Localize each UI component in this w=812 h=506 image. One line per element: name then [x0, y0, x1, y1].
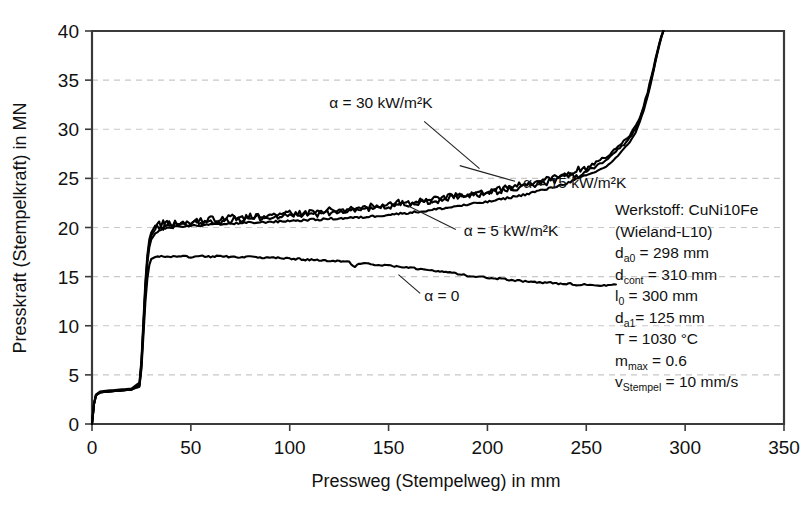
annotation-leader-line [424, 121, 479, 168]
x-tick-label: 300 [669, 437, 701, 458]
annotation-label: α = 0 [424, 287, 460, 304]
parameter-info-box: Werkstoff: CuNi10Fe(Wieland-L10)da0 = 29… [615, 201, 758, 393]
y-tick-labels: 0510152025303540 [58, 21, 79, 435]
x-tick-label: 350 [768, 437, 800, 458]
chart-svg: 050100150200250300350 0510152025303540 α… [0, 0, 812, 506]
info-line: l0 = 300 mm [615, 287, 698, 307]
y-tick-label: 25 [58, 168, 79, 189]
info-line: vStempel = 10 mm/s [615, 373, 739, 393]
info-line: da0 = 298 mm [615, 244, 709, 264]
x-tick-label: 0 [87, 437, 98, 458]
y-tick-label: 15 [58, 267, 79, 288]
annotation-label: α = 30 kW/m²K [329, 94, 433, 111]
info-line: mmax = 0.6 [615, 352, 687, 372]
annotation-label: α = 5 kW/m²K [464, 222, 559, 239]
annotation-leader-line [398, 275, 420, 294]
x-tick-label: 200 [472, 437, 504, 458]
series-annotations: α = 30 kW/m²Kα = 15 kW/m²Kα = 5 kW/m²Kα … [329, 94, 627, 305]
info-line: Werkstoff: CuNi10Fe [615, 201, 758, 218]
annotation-leader-line [460, 166, 515, 182]
x-tick-label: 150 [373, 437, 405, 458]
y-tick-label: 35 [58, 70, 79, 91]
y-tick-label: 20 [58, 218, 79, 239]
info-line: T = 1030 °C [615, 330, 698, 347]
y-tick-label: 30 [58, 119, 79, 140]
curve-alpha-0 [92, 256, 616, 424]
info-line: dcont = 310 mm [615, 266, 717, 286]
x-axis-title: Pressweg (Stempelweg) in mm [311, 471, 560, 491]
y-axis-title: Presskraft (Stempelkraft) in MN [10, 102, 30, 353]
annotation-leaders [398, 121, 515, 293]
y-tick-label: 10 [58, 316, 79, 337]
x-tick-label: 250 [570, 437, 602, 458]
chart-container: 050100150200250300350 0510152025303540 α… [0, 0, 812, 506]
y-tick-label: 40 [58, 21, 79, 42]
x-tick-labels: 050100150200250300350 [87, 437, 800, 458]
x-tick-label: 100 [274, 437, 306, 458]
x-tick-label: 50 [180, 437, 201, 458]
info-line: (Wieland-L10) [615, 223, 712, 240]
y-tick-label: 5 [68, 365, 79, 386]
annotation-label: α = 15 kW/m²K [523, 174, 627, 191]
y-tick-label: 0 [68, 414, 79, 435]
